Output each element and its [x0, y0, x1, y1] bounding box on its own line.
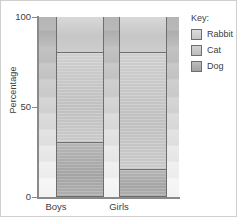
legend-item-rabbit: Rabbit	[191, 29, 233, 40]
legend-label-rabbit: Rabbit	[207, 29, 233, 40]
y-tick-label-50: 50	[1, 101, 31, 112]
y-tick-label-100: 100	[1, 11, 31, 22]
y-axis-tick-labels: 100 50 0	[1, 1, 31, 217]
legend-swatch-rabbit	[191, 29, 202, 40]
bar-segment-girls-cat	[119, 52, 167, 170]
x-axis-line	[37, 197, 180, 199]
x-tick-label-girls: Girls	[84, 201, 154, 212]
stacked-bar-chart: Percentage 100 50 0 Boys Girls Key: Rabb…	[0, 0, 237, 217]
legend-label-dog: Dog	[207, 61, 224, 72]
legend-item-cat: Cat	[191, 45, 233, 56]
legend-title: Key:	[191, 13, 233, 23]
bar-segment-boys-dog	[56, 142, 104, 197]
x-tick-label-boys: Boys	[21, 201, 91, 212]
legend-swatch-cat	[191, 45, 202, 56]
bar-segment-boys-cat	[56, 52, 104, 143]
legend: Key: Rabbit Cat Dog	[191, 13, 233, 77]
bar-segment-girls-rabbit	[119, 17, 167, 53]
legend-swatch-dog	[191, 61, 202, 72]
legend-label-cat: Cat	[207, 45, 221, 56]
bar-segment-boys-rabbit	[56, 17, 104, 53]
plot-area	[39, 17, 179, 197]
legend-item-dog: Dog	[191, 61, 233, 72]
bar-segment-girls-dog	[119, 169, 167, 197]
